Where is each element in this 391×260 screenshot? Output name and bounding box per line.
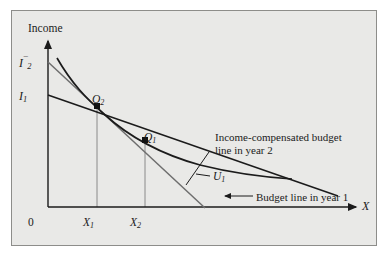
curve-label-u1: U1	[213, 170, 225, 184]
annotation-budget-line-year-1: Budget line in year 1	[256, 191, 348, 204]
q1-subscript: 1	[152, 136, 156, 145]
y-intercept-i2-label: I¯2	[19, 56, 31, 72]
annotation-income-compensated-budget-line: Income-compensated budget line in year 2	[215, 131, 355, 157]
x-tick-label-x1: X1	[83, 216, 94, 230]
u1-subscript: 1	[221, 175, 225, 184]
point-label-q1: Q1	[144, 131, 156, 145]
q2-subscript: 2	[100, 98, 104, 107]
origin-label: 0	[28, 216, 34, 230]
y-axis-label: Income	[28, 22, 62, 36]
x-tick-label-x2: X2	[130, 216, 141, 230]
i2-subscript: 2	[27, 62, 31, 71]
x1-subscript: 1	[90, 221, 94, 230]
figure-frame	[11, 10, 377, 246]
x1-base: X	[83, 216, 90, 228]
x2-base: X	[130, 216, 137, 228]
y-intercept-i1-label: I1	[19, 89, 27, 105]
x-axis-label: X	[362, 199, 369, 213]
point-label-q2: Q2	[92, 93, 104, 107]
economics-figure: Income X I¯2 I1 Q2 Q1 U1 0 X1 X2 Income-…	[0, 0, 391, 260]
x2-subscript: 2	[137, 221, 141, 230]
i1-subscript: 1	[23, 95, 27, 104]
